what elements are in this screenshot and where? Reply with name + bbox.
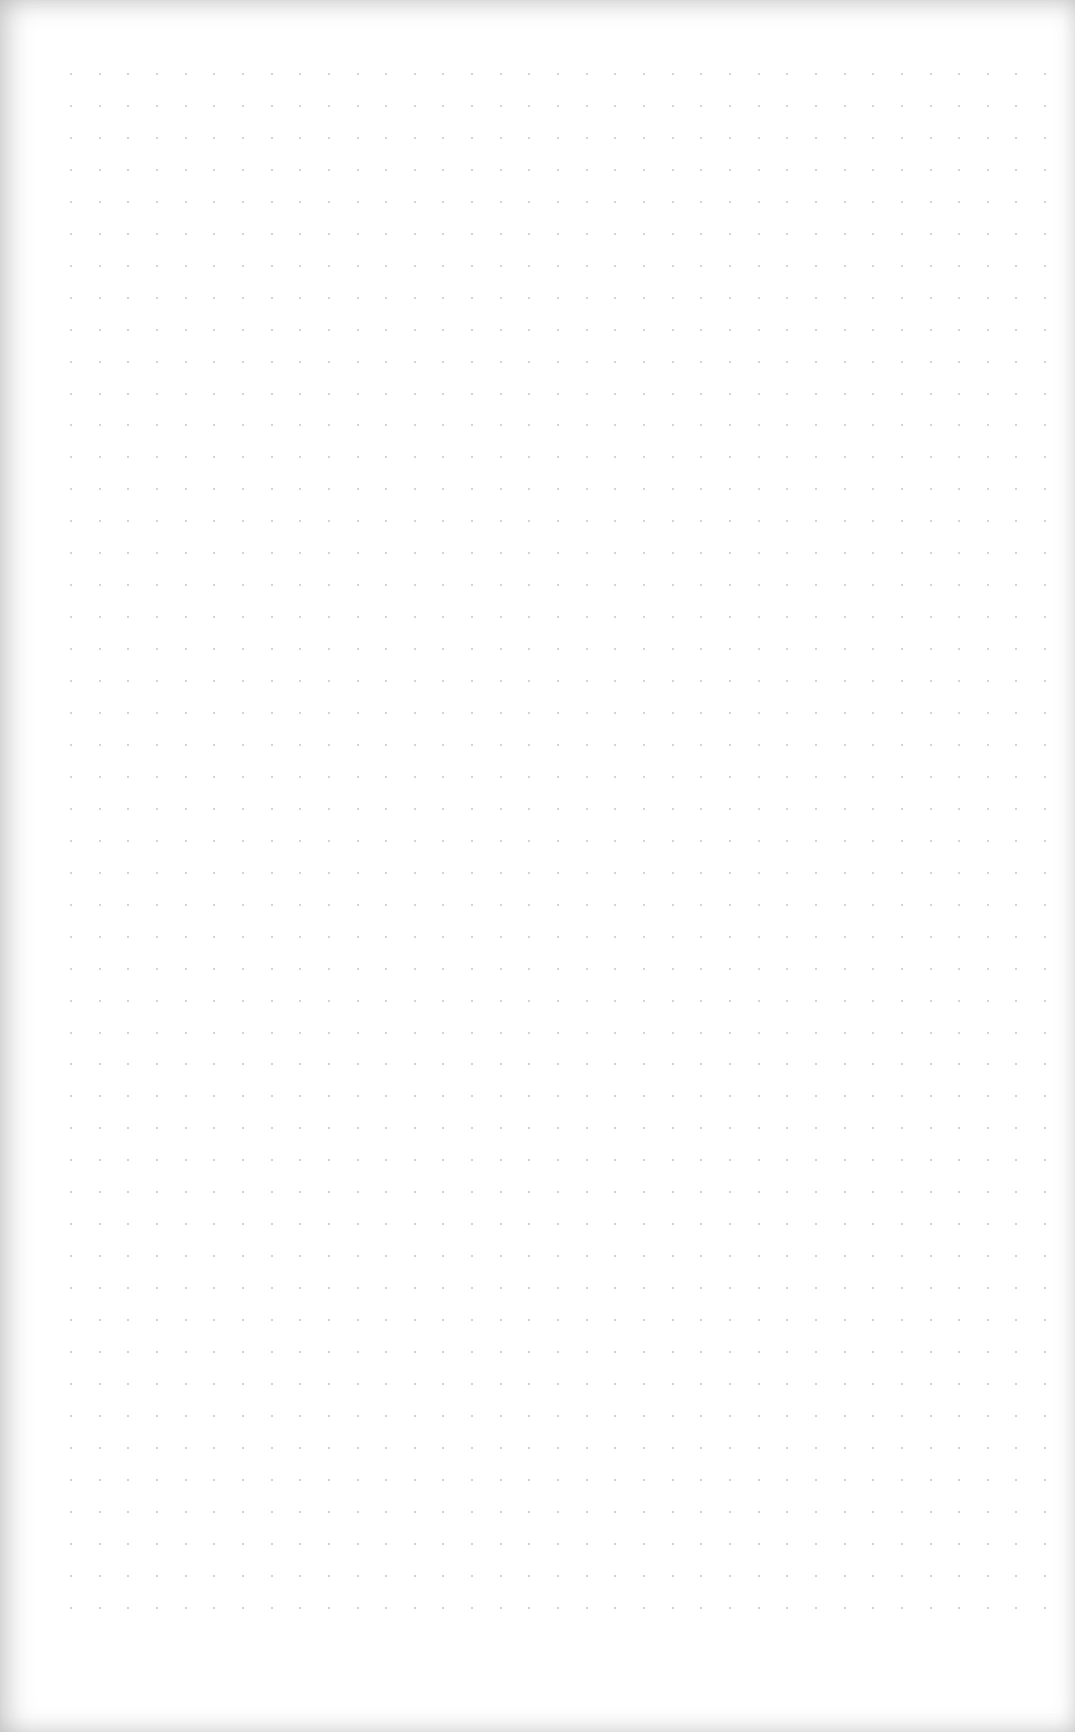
grid-dot [156, 137, 158, 139]
grid-dot [271, 1287, 273, 1289]
grid-dot [185, 1223, 187, 1225]
grid-dot [127, 456, 129, 458]
grid-dot [242, 329, 244, 331]
grid-dot [242, 808, 244, 810]
grid-dot [99, 488, 101, 490]
grid-dot [958, 1095, 960, 1097]
grid-dot [242, 361, 244, 363]
grid-dot [958, 1319, 960, 1321]
grid-dot [127, 744, 129, 746]
grid-dot [500, 552, 502, 554]
grid-dot [299, 1191, 301, 1193]
grid-dot [614, 968, 616, 970]
grid-dot [528, 233, 530, 235]
grid-dot [672, 808, 674, 810]
grid-dot [815, 1095, 817, 1097]
grid-dot [442, 233, 444, 235]
grid-dot [614, 1351, 616, 1353]
grid-dot [127, 776, 129, 778]
grid-dot [127, 648, 129, 650]
grid-dot [299, 329, 301, 331]
grid-dot [271, 73, 273, 75]
grid-dot [299, 1383, 301, 1385]
grid-dot [299, 1415, 301, 1417]
grid-dot [299, 1447, 301, 1449]
grid-dot [242, 552, 244, 554]
grid-dot [1044, 1543, 1046, 1545]
grid-dot [1015, 648, 1017, 650]
grid-dot [99, 1383, 101, 1385]
grid-dot [586, 361, 588, 363]
grid-dot [844, 776, 846, 778]
grid-dot [643, 488, 645, 490]
grid-dot [213, 872, 215, 874]
grid-dot [901, 1607, 903, 1609]
grid-dot [385, 1159, 387, 1161]
grid-dot [471, 1479, 473, 1481]
grid-dot [614, 488, 616, 490]
grid-dot [500, 1479, 502, 1481]
grid-dot [614, 73, 616, 75]
grid-dot [729, 393, 731, 395]
grid-dot [328, 1095, 330, 1097]
grid-dot [213, 105, 215, 107]
grid-dot [872, 201, 874, 203]
grid-dot [930, 904, 932, 906]
grid-dot [471, 840, 473, 842]
grid-dot [156, 520, 158, 522]
grid-dot [1044, 1223, 1046, 1225]
grid-dot [70, 233, 72, 235]
grid-dot [385, 520, 387, 522]
grid-dot [1015, 1511, 1017, 1513]
grid-dot [872, 1159, 874, 1161]
grid-dot [442, 840, 444, 842]
grid-dot [271, 424, 273, 426]
grid-dot [987, 648, 989, 650]
grid-dot [528, 1543, 530, 1545]
grid-dot [357, 1447, 359, 1449]
grid-dot [471, 616, 473, 618]
grid-dot [99, 393, 101, 395]
grid-dot [586, 201, 588, 203]
grid-dot [901, 1415, 903, 1417]
grid-dot [958, 936, 960, 938]
grid-dot [700, 1000, 702, 1002]
grid-dot [729, 744, 731, 746]
grid-dot [328, 776, 330, 778]
grid-dot [872, 968, 874, 970]
grid-dot [758, 1159, 760, 1161]
grid-dot [930, 105, 932, 107]
grid-dot [385, 1095, 387, 1097]
grid-dot [99, 1032, 101, 1034]
grid-dot [758, 520, 760, 522]
grid-dot [328, 552, 330, 554]
grid-dot [958, 456, 960, 458]
grid-dot [614, 1127, 616, 1129]
grid-dot [414, 1255, 416, 1257]
grid-dot [213, 329, 215, 331]
grid-dot [70, 1447, 72, 1449]
grid-dot [271, 1191, 273, 1193]
grid-dot [127, 936, 129, 938]
grid-dot [271, 361, 273, 363]
grid-dot [700, 1415, 702, 1417]
grid-dot [442, 1191, 444, 1193]
grid-dot [185, 936, 187, 938]
grid-dot [672, 393, 674, 395]
grid-dot [1044, 744, 1046, 746]
grid-dot [987, 840, 989, 842]
grid-dot [557, 297, 559, 299]
grid-dot [901, 616, 903, 618]
grid-dot [471, 105, 473, 107]
grid-dot [1015, 297, 1017, 299]
grid-dot [643, 393, 645, 395]
grid-dot [127, 329, 129, 331]
grid-dot [844, 361, 846, 363]
grid-dot [901, 520, 903, 522]
grid-dot [557, 904, 559, 906]
grid-dot [586, 1095, 588, 1097]
grid-dot [901, 1351, 903, 1353]
grid-dot [1015, 1479, 1017, 1481]
grid-dot [930, 712, 932, 714]
grid-dot [213, 1575, 215, 1577]
